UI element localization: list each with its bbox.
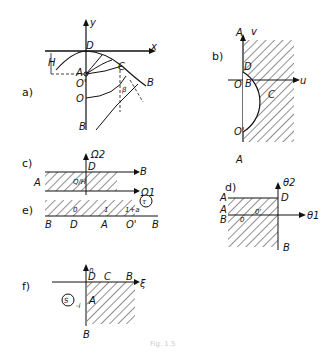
axis-u-label: u [300,75,306,86]
svg-text:D: D [86,40,94,51]
minus-i-label: -i [76,302,81,310]
svg-text:B: B [83,329,90,340]
panel-a-label: a) [22,86,33,99]
svg-text:B: B [245,78,252,89]
panel-e-label: e) [22,204,33,217]
svg-text:C: C [118,61,125,72]
axis-y-label: y [89,17,97,28]
svg-text:D: D [88,161,96,172]
svg-text:0: 0 [73,206,78,214]
svg-text:A: A [235,154,243,165]
svg-text:D: D [244,61,252,72]
panel-c-label: c) [22,157,32,170]
svg-text:D: D [88,271,96,282]
svg-text:A: A [88,295,96,306]
svg-text:D: D [70,219,78,230]
axis-theta1-label: θ1 [307,210,319,221]
s-label: S [64,297,69,305]
panel-f-label: f) [22,280,30,293]
axis-v-label: v [251,26,258,37]
panel-c: c) Ω2 Ω1 D B A Q/H [22,149,155,198]
figure-caption: Fig. 1.5 [150,340,176,348]
axis-omega2-label: Ω2 [90,149,105,160]
svg-text:B: B [220,214,227,225]
svg-text:D: D [281,192,289,203]
svg-text:H: H [48,57,56,68]
svg-text:O': O' [76,78,87,89]
svg-text:A: A [33,177,41,188]
panel-b-label: b) [212,50,223,63]
svg-text:B: B [152,219,159,230]
svg-text:B: B [126,271,133,282]
panel-e: e) τ 0 1 1+a B D A O' B [22,195,159,230]
axis-theta2-label: θ2 [283,177,295,188]
svg-text:B: B [79,121,86,132]
svg-text:O: O [76,93,84,104]
svg-text:A: A [75,67,83,78]
svg-text:B: B [45,219,52,230]
panel-b: b) A v u D O B C O' A [212,26,306,165]
svg-text:O': O' [234,126,245,137]
svg-text:A: A [235,27,243,38]
svg-text:A: A [100,219,108,230]
svg-text:0': 0' [255,208,261,216]
svg-text:β: β [122,86,127,94]
svg-text:1: 1 [104,206,108,214]
svg-text:O: O [234,79,242,90]
height-label: Q/H [73,178,87,186]
axis-x-label: x [150,41,157,52]
svg-text:B: B [147,77,154,88]
figure: a) y x D H A O' O B C β B b) A [0,0,330,356]
panel-a: a) y x D H A O' O B C β B [22,17,157,132]
panel-d: d) θ2 θ1 A D A B 0' 0 B [219,177,319,253]
axis-xi-label: ξ [139,278,146,289]
svg-text:0: 0 [240,216,245,224]
svg-text:C: C [268,89,275,100]
svg-text:1+a: 1+a [125,206,140,214]
svg-text:B: B [283,242,290,253]
svg-text:B: B [140,166,147,177]
svg-text:C: C [104,271,111,282]
svg-text:A: A [219,192,227,203]
svg-text:O': O' [126,219,137,230]
panel-f: f) η ξ D C B S -i A B [22,264,146,340]
